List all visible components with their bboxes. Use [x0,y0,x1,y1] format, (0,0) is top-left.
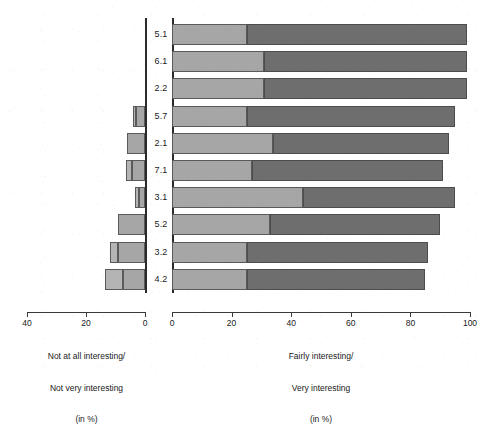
category-label: 2.1 [150,133,172,154]
right-axis-tick-label: 40 [286,318,295,328]
right-axis-tick-label: 0 [170,318,175,328]
bar-segment-very-interesting [273,133,449,154]
right-axis-tick-label: 20 [227,318,236,328]
category-label: 4.2 [150,269,172,290]
bar-segment-fairly-interesting [172,133,273,154]
left-bar-row [0,133,150,154]
right-bar-row [172,160,489,181]
bar-segment-not-very-interesting [127,133,145,154]
category-label: 3.2 [150,242,172,263]
left-bar-row [0,24,150,45]
bar-segment-fairly-interesting [172,187,303,208]
right-bar-row [172,187,489,208]
bar-segment-not-at-all-interesting [110,242,119,263]
bar-segment-fairly-interesting [172,106,247,127]
bar-segment-fairly-interesting [172,24,247,45]
bar-segment-not-at-all-interesting [126,160,132,181]
left-axis-tick [27,312,28,317]
left-bar-row [0,160,150,181]
right-axis-tick [351,312,352,317]
bar-segment-not-very-interesting [139,187,145,208]
bar-segment-very-interesting [303,187,455,208]
left-bar-row [0,242,150,263]
category-label: 5.2 [150,214,172,235]
bar-segment-fairly-interesting [172,78,264,99]
left-plot-panel [0,18,150,308]
bar-segment-not-at-all-interesting [135,187,139,208]
left-caption-line-2: Not very interesting [27,383,146,394]
left-axis-tick [86,312,87,317]
right-caption-line-2: Very interesting [172,383,470,394]
right-bar-row [172,133,489,154]
bar-segment-very-interesting [264,51,467,72]
bar-segment-very-interesting [247,269,426,290]
left-bar-row [0,187,150,208]
bar-segment-fairly-interesting [172,242,247,263]
right-bar-row [172,269,489,290]
bar-segment-fairly-interesting [172,214,270,235]
bar-segment-very-interesting [252,160,443,181]
bar-segment-not-very-interesting [136,106,145,127]
left-bar-row [0,269,150,290]
category-label: 3.1 [150,187,172,208]
right-plot-panel [172,18,489,308]
right-axis-tick [470,312,471,317]
right-axis-tick-label: 80 [406,318,415,328]
category-label: 5.1 [150,24,172,45]
left-axis-tick-label: 0 [143,318,148,328]
right-axis-caption: Fairly interesting/ Very interesting (in… [172,330,470,428]
bar-segment-not-at-all-interesting [105,269,123,290]
left-bar-row [0,51,150,72]
category-label: 2.2 [150,78,172,99]
right-bar-row [172,51,489,72]
left-bar-row [0,106,150,127]
left-axis-tick-label: 40 [22,318,31,328]
bar-segment-not-very-interesting [118,242,145,263]
right-axis-tick [291,312,292,317]
left-caption-line-3: (in %) [27,414,146,425]
left-caption-line-1: Not at all interesting/ [27,351,146,362]
bar-segment-very-interesting [247,106,456,127]
right-caption-line-3: (in %) [172,414,470,425]
bar-segment-not-at-all-interesting [133,106,136,127]
bar-segment-fairly-interesting [172,160,252,181]
category-label-column: 5.16.12.25.72.17.13.15.23.24.2 [150,18,172,308]
left-axis-tick [145,312,146,317]
bar-segment-very-interesting [247,24,468,45]
bar-segment-very-interesting [270,214,440,235]
right-bar-row [172,106,489,127]
bar-segment-not-very-interesting [123,269,145,290]
right-bar-row [172,214,489,235]
right-axis-line [172,312,470,313]
right-axis-tick-label: 100 [463,318,477,328]
left-axis-tick-label: 20 [81,318,90,328]
bar-segment-not-very-interesting [132,160,145,181]
left-bar-row [0,78,150,99]
right-axis-tick [232,312,233,317]
right-axis-tick-label: 60 [346,318,355,328]
right-bar-row [172,78,489,99]
right-bar-row [172,24,489,45]
right-caption-line-1: Fairly interesting/ [172,351,470,362]
category-label: 7.1 [150,160,172,181]
category-label: 5.7 [150,106,172,127]
left-axis-caption: Not at all interesting/ Not very interes… [27,330,146,428]
left-bar-row [0,214,150,235]
category-label: 6.1 [150,51,172,72]
right-axis-tick [410,312,411,317]
right-bar-row [172,242,489,263]
bar-segment-very-interesting [264,78,467,99]
bar-segment-fairly-interesting [172,269,247,290]
bar-segment-not-very-interesting [118,214,145,235]
bar-segment-fairly-interesting [172,51,264,72]
right-axis-tick [172,312,173,317]
bar-segment-very-interesting [247,242,429,263]
